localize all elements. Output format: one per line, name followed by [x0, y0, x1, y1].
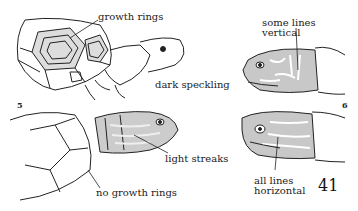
figure-number-5: 5	[17, 100, 23, 110]
label-no-growth-rings: no growth rings	[96, 187, 177, 198]
label-vertical: vertical	[262, 27, 300, 38]
head-horizontal-lines	[242, 112, 345, 162]
label-growth-rings: growth rings	[98, 11, 163, 22]
label-horizontal: horizontal	[254, 185, 305, 196]
label-light-streaks: light streaks	[165, 153, 228, 164]
label-dark-speckling: dark speckling	[155, 79, 230, 90]
turtle-illustrations	[0, 0, 358, 211]
head-vertical-lines	[243, 47, 345, 94]
page-number: 41	[318, 176, 338, 195]
figure-number-6: 6	[342, 100, 348, 110]
